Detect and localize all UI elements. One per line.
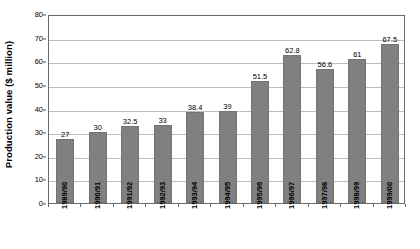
- y-tick-mark: [43, 156, 46, 157]
- y-tick-mark: [43, 62, 46, 63]
- x-tick-mark: [340, 204, 341, 207]
- x-tick-mark: [113, 204, 114, 207]
- bar-value-label: 33: [143, 117, 183, 125]
- x-tick-label-text: 1999/00: [385, 182, 394, 209]
- y-tick-mark: [43, 38, 46, 39]
- bar-value-label: 27: [45, 131, 85, 139]
- y-tick-label: 60: [35, 59, 43, 67]
- y-axis-tick-labels: 01020304050607080: [22, 0, 46, 210]
- x-tick-mark: [275, 204, 276, 207]
- y-tick-label: 50: [35, 82, 43, 90]
- bar-value-label: 51.5: [240, 73, 280, 81]
- x-tick-label-text: 1990/91: [93, 182, 102, 209]
- x-tick-mark: [373, 204, 374, 207]
- x-tick-mark: [145, 204, 146, 207]
- bar-value-label: 62.8: [272, 47, 312, 55]
- y-tick-mark: [43, 85, 46, 86]
- x-tick-mark: [243, 204, 244, 207]
- x-tick-mark: [48, 204, 49, 207]
- x-tick-mark: [308, 204, 309, 207]
- y-axis-title: Production value ($ million): [0, 0, 18, 208]
- x-tick-label-text: 1998/99: [352, 182, 361, 209]
- y-tick-mark: [43, 109, 46, 110]
- y-tick-label: 40: [35, 106, 43, 114]
- bar-value-label: 39: [208, 103, 248, 111]
- x-tick-label-text: 1997/98: [320, 182, 329, 209]
- x-tick-mark: [178, 204, 179, 207]
- bar: [283, 55, 301, 203]
- x-tick-label-text: 1996/97: [287, 182, 296, 209]
- x-tick-label-text: 1994/95: [223, 182, 232, 209]
- y-tick-mark: [43, 180, 46, 181]
- bar-value-label: 56.6: [305, 61, 345, 69]
- x-tick-label-text: 1989/90: [60, 182, 69, 209]
- bar: [381, 44, 399, 203]
- bar-value-label: 61: [337, 51, 377, 59]
- x-tick-mark: [405, 204, 406, 207]
- y-tick-mark: [43, 204, 46, 205]
- y-tick-label: 30: [35, 129, 43, 137]
- x-tick-label-text: 1995/96: [255, 182, 264, 209]
- x-tick-label-text: 1991/92: [125, 182, 134, 209]
- y-tick-mark: [43, 15, 46, 16]
- bars-layer: 273032.53338.43951.562.856.66167.5: [49, 16, 404, 203]
- y-tick-label: 10: [35, 177, 43, 185]
- x-tick-label-text: 1992/93: [158, 182, 167, 209]
- x-tick-mark: [210, 204, 211, 207]
- y-tick-label: 80: [35, 11, 43, 19]
- bar-value-label: 67.5: [370, 36, 410, 44]
- x-tick-label-text: 1993/94: [190, 182, 199, 209]
- x-tick-label: 1999/00: [369, 209, 409, 221]
- bar-chart: Production value ($ million) 01020304050…: [0, 0, 420, 249]
- plot-area: 273032.53338.43951.562.856.66167.5: [48, 15, 405, 204]
- y-axis-title-text: Production value ($ million): [4, 40, 15, 167]
- y-tick-label: 70: [35, 35, 43, 43]
- x-axis-tick-labels: 1989/901990/911991/921992/931993/941994/…: [48, 204, 405, 249]
- y-tick-label: 20: [35, 153, 43, 161]
- x-tick-mark: [80, 204, 81, 207]
